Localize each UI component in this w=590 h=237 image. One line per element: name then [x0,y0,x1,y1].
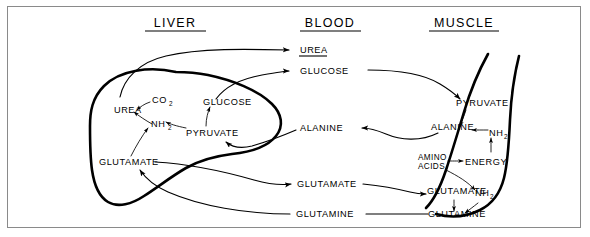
liver-nh2-label: NH 2 [151,119,172,131]
svg-text:NH: NH [151,119,165,129]
blood-alanine-label: ALANINE [300,123,343,133]
diagram-canvas: LIVER BLOOD MUSCLE [0,0,590,237]
muscle-pyruvate-label: PYRUVATE [456,98,509,108]
blood-glutamate-label: GLUTAMATE [297,179,357,189]
flow-muscle-alanine-to-blood [362,128,438,139]
header-muscle: MUSCLE [429,16,499,31]
flow-blood-glutamate-to-muscle [363,184,426,194]
svg-text:UREA: UREA [300,45,328,55]
diagram-page: LIVER BLOOD MUSCLE [0,0,590,237]
muscle-nh2-upper-label: NH 2 [489,128,508,140]
svg-text:2: 2 [490,193,494,200]
muscle-amino-label: AMINO [418,153,447,162]
header-blood: BLOOD [300,16,361,31]
header-liver-label: LIVER [154,16,197,30]
svg-text:2: 2 [169,100,173,107]
liver-glutamate-label: GLUTAMATE [99,157,159,167]
svg-text:2: 2 [504,133,508,140]
header-muscle-label: MUSCLE [434,16,494,30]
header-liver: LIVER [145,16,206,31]
liver-pyruvate-label: PYRUVATE [186,128,239,138]
svg-text:NH: NH [475,188,489,198]
header-blood-label: BLOOD [305,16,355,30]
flow-liver-glutamate-to-nh2 [131,128,148,156]
blood-urea-label: UREA [299,45,328,56]
liver-co2-label: CO 2 [152,95,173,107]
flow-liver-pyruvate-to-glucose [206,107,210,126]
liver-glucose-label: GLUCOSE [203,97,252,107]
flow-blood-glucose-to-muscle [368,70,460,99]
flow-liver-glucose-to-blood [216,71,289,99]
muscle-nh2-lower-label: NH 2 [475,188,494,200]
svg-text:2: 2 [168,124,172,131]
muscle-glutamine-label: GLUTAMINE [428,209,486,219]
muscle-acids-label: ACIDS [418,162,445,171]
blood-glutamine-label: GLUTAMINE [296,209,354,219]
svg-text:CO: CO [152,95,167,105]
muscle-energy-label: ENERGY [465,157,507,167]
muscle-alanine-label: ALANINE [431,122,474,132]
blood-glucose-label: GLUCOSE [300,66,349,76]
svg-text:NH: NH [489,128,503,138]
flow-blood-glutamine-to-liver [140,170,290,214]
liver-urea-label: UREA [114,105,142,115]
